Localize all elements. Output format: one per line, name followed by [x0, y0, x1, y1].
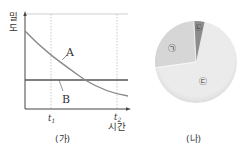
- series-a-curve: [25, 31, 128, 96]
- panel-b-label: (나): [186, 134, 201, 144]
- series-b-label: B: [62, 93, 70, 106]
- figure: A B 밀 도 t1 t2 시간 (가) ㉠ ㉡ ㉢ (나): [0, 0, 247, 155]
- slice-3-label: ㉢: [199, 77, 207, 86]
- slice-2-label: ㉡: [195, 24, 202, 32]
- pie-chart-panel: ㉠ ㉡ ㉢ (나): [155, 21, 237, 144]
- x-axis-label: 시간: [108, 121, 126, 132]
- slice-1-label: ㉠: [168, 44, 176, 53]
- y-axis-label-1: 밀: [9, 11, 18, 22]
- panel-a-label: (가): [55, 134, 70, 144]
- series-a-label: A: [65, 46, 75, 59]
- x-axis-arrow-icon: [126, 107, 131, 110]
- t1-tick-label: t1: [48, 113, 55, 124]
- series-b-leader: [59, 80, 63, 91]
- y-axis-label-2: 도: [9, 22, 18, 33]
- line-chart-panel: A B 밀 도 t1 t2 시간 (가): [9, 11, 131, 144]
